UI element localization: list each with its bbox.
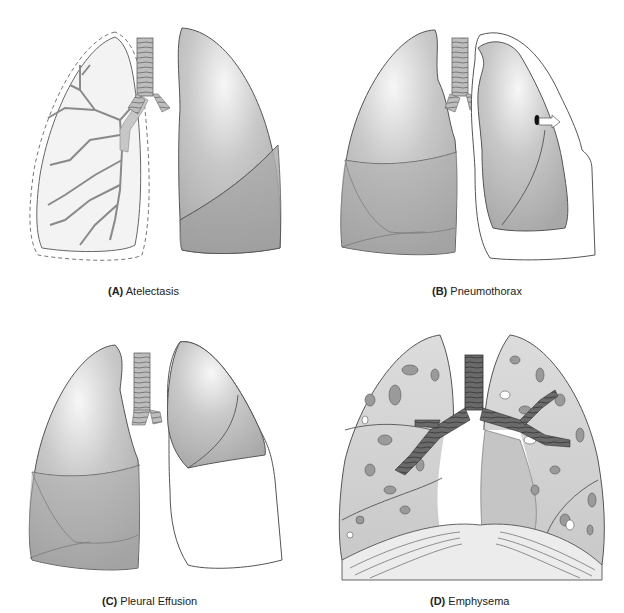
caption-pleural-effusion: (C) Pleural Effusion: [102, 595, 197, 607]
emphysema-illustration: [330, 320, 624, 590]
caption-letter: (B): [432, 285, 447, 297]
trachea: [137, 38, 153, 96]
trachea: [465, 355, 483, 410]
caption-pneumothorax: (B) Pneumothorax: [432, 285, 522, 297]
panel-atelectasis: (A) Atelectasis: [20, 0, 310, 310]
caption-letter: (D): [430, 595, 445, 607]
caption-letter: (A): [108, 285, 123, 297]
caption-emphysema: (D) Emphysema: [430, 595, 509, 607]
pleural-effusion-illustration: [20, 320, 310, 590]
atelectasis-illustration: [20, 0, 310, 270]
caption-label: Emphysema: [448, 595, 509, 607]
pneumothorax-illustration: [330, 0, 624, 270]
caption-label: Atelectasis: [126, 285, 179, 297]
trachea: [452, 38, 468, 96]
panel-pneumothorax: (B) Pneumothorax: [330, 0, 624, 310]
panel-pleural-effusion: (C) Pleural Effusion: [20, 320, 310, 613]
panel-emphysema: (D) Emphysema: [330, 320, 624, 613]
caption-atelectasis: (A) Atelectasis: [108, 285, 179, 297]
compressed-left-lung: [168, 342, 266, 468]
caption-letter: (C): [102, 595, 117, 607]
trachea: [134, 353, 150, 411]
caption-label: Pleural Effusion: [120, 595, 197, 607]
collapsed-left-lung: [478, 42, 568, 231]
caption-label: Pneumothorax: [450, 285, 522, 297]
